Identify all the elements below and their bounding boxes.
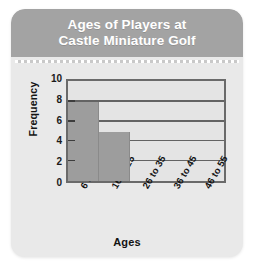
y-tick-mark [68, 120, 75, 122]
bar [68, 102, 99, 181]
y-tick-label: 10 [46, 74, 62, 84]
chart-header: Ages of Players at Castle Miniature Golf [11, 9, 243, 57]
bar [99, 132, 130, 182]
chart-card: Ages of Players at Castle Miniature Golf… [11, 9, 243, 257]
y-tick-label: 0 [46, 178, 62, 188]
y-tick-label: 4 [46, 136, 62, 146]
chart-plot-area: Frequency 0246810 6 to 1516 to 2526 to 3… [11, 65, 243, 257]
chart-title-line-2: Castle Miniature Golf [58, 33, 195, 49]
chart-title-line-1: Ages of Players at [68, 17, 187, 33]
x-axis-title: Ages [11, 236, 243, 248]
dotted-separator [15, 60, 239, 63]
y-tick-label: 2 [46, 157, 62, 167]
y-tick-label: 6 [46, 116, 62, 126]
y-axis-tick-labels: 0246810 [44, 79, 62, 183]
plot-inner [68, 81, 224, 181]
y-tick-label: 8 [46, 95, 62, 105]
y-axis-title: Frequency [27, 69, 39, 149]
plot-box [66, 79, 226, 183]
x-axis-tick-labels: 6 to 1516 to 2526 to 3536 to 4546 to 55 [66, 185, 226, 237]
y-tick-mark [68, 160, 75, 162]
y-tick-mark [68, 100, 75, 102]
y-tick-mark [68, 140, 75, 142]
